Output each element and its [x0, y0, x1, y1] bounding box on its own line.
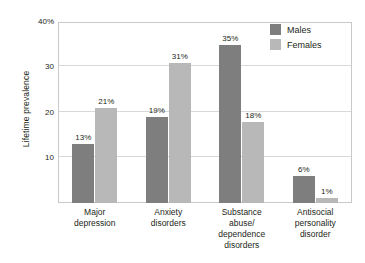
bar-group: 35%18% — [219, 22, 264, 203]
bar-value-label: 35% — [213, 35, 247, 43]
bar-value-label: 18% — [236, 112, 270, 120]
legend-swatch-icon — [270, 39, 281, 50]
bar-value-label: 31% — [163, 53, 197, 61]
bar-males[interactable] — [72, 144, 94, 203]
legend-item-females[interactable]: Females — [270, 39, 352, 50]
chart-legend: MalesFemales — [270, 24, 352, 54]
x-label-line: disorder — [272, 229, 358, 240]
x-axis-labels: MajordepressionAnxietydisordersSubstance… — [58, 207, 352, 263]
bar-males[interactable] — [146, 117, 168, 203]
y-tick-label-10: 10 — [14, 154, 54, 162]
y-tick-label-20: 20 — [14, 109, 54, 117]
y-tick-label-40: 40% — [14, 18, 54, 26]
bar-chart: Lifetime prevalence 10203040% 13%21%19%3… — [0, 0, 365, 263]
x-label-line: personality — [272, 218, 358, 229]
bar-group: 19%31% — [146, 22, 191, 203]
bar-females[interactable] — [95, 108, 117, 203]
bar-females[interactable] — [316, 198, 338, 203]
x-label-line: disorders — [199, 240, 285, 251]
bar-females[interactable] — [242, 122, 264, 203]
legend-label: Females — [287, 40, 322, 50]
bar-value-label: 21% — [89, 98, 123, 106]
y-tick-label-30: 30 — [14, 63, 54, 71]
bar-value-label: 6% — [287, 166, 321, 174]
bar-value-label: 1% — [310, 188, 344, 196]
bar-group: 13%21% — [72, 22, 117, 203]
bar-males[interactable] — [219, 45, 241, 203]
legend-item-males[interactable]: Males — [270, 24, 352, 35]
bar-females[interactable] — [169, 63, 191, 203]
x-axis-label-3: Antisocialpersonalitydisorder — [272, 207, 358, 240]
legend-swatch-icon — [270, 24, 281, 35]
legend-label: Males — [287, 25, 311, 35]
x-label-line: Antisocial — [272, 207, 358, 218]
